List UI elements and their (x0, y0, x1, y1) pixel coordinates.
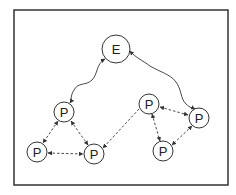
network-diagram: E P P P P P P (0, 0, 236, 195)
node-label: P (145, 97, 154, 112)
node-p4: P (139, 94, 159, 114)
node-p5: P (189, 108, 209, 128)
node-label: P (33, 145, 42, 160)
node-label: P (195, 111, 204, 126)
edge-p4-p5 (160, 107, 188, 115)
node-label: P (90, 147, 99, 162)
edge-p4-p6 (152, 114, 160, 141)
node-label: E (112, 42, 121, 57)
node-p6: P (153, 141, 173, 161)
node-label: P (159, 144, 168, 159)
node-p3: P (84, 144, 104, 164)
edge-e-p1 (70, 59, 105, 103)
edge-p5-p6 (172, 126, 192, 145)
edge-p2-p3 (48, 153, 83, 154)
node-p1: P (54, 102, 74, 122)
node-p2: P (27, 142, 47, 162)
node-e: E (102, 35, 130, 63)
edge-p1-p3 (71, 121, 88, 145)
edge-p4-p3 (103, 109, 139, 148)
edge-p1-p2 (43, 121, 58, 143)
node-label: P (60, 105, 69, 120)
